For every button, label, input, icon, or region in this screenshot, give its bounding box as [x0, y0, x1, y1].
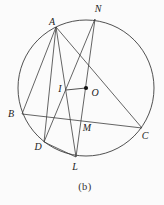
segment-IO: [66, 88, 86, 90]
center-point-dot: [84, 86, 88, 90]
chord-DL: [44, 142, 76, 157]
point-label-N: N: [94, 3, 103, 14]
point-label-O: O: [91, 87, 98, 98]
figure-caption: (b): [40, 181, 130, 192]
chord-AD: [44, 27, 56, 142]
geometry-svg: ANBCDLMIO: [0, 0, 164, 205]
point-label-I: I: [57, 83, 62, 94]
point-label-A: A: [48, 16, 56, 27]
point-label-M: M: [82, 122, 92, 133]
point-label-D: D: [33, 141, 42, 152]
point-label-L: L: [71, 161, 78, 172]
point-label-C: C: [142, 130, 149, 141]
chord-AB: [22, 27, 56, 114]
geometry-figure: ANBCDLMIO (b): [0, 0, 164, 205]
point-label-B: B: [8, 108, 14, 119]
